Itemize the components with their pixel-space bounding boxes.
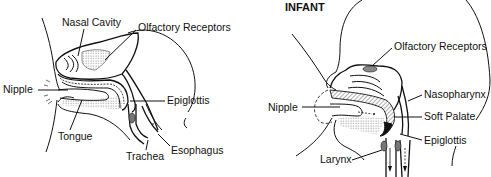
leader-esophagus xyxy=(158,134,170,146)
chin-profile xyxy=(46,100,57,152)
nipple-shape-infant xyxy=(330,104,362,116)
arrow-down-icon xyxy=(388,166,392,172)
infant-forehead xyxy=(336,0,362,72)
infant-skull-back xyxy=(466,0,490,120)
infant-title: INFANT xyxy=(285,1,325,13)
label-nasopharynx: Nasopharynx xyxy=(424,88,487,100)
face-profile xyxy=(42,18,60,90)
leader-epiglottis-infant xyxy=(400,134,422,140)
label-olfactory-receptors-adult: Olfactory Receptors xyxy=(138,21,231,33)
label-esophagus: Esophagus xyxy=(171,144,224,156)
label-nipple-infant: Nipple xyxy=(268,101,298,113)
leader-olfactory-adult xyxy=(105,30,136,60)
leader-trachea xyxy=(146,140,148,150)
anatomy-diagram: Nasal Cavity Olfactory Receptors Nipple … xyxy=(0,0,491,177)
infant-tongue-area xyxy=(338,117,384,135)
lip-marks xyxy=(44,80,52,104)
leader-nasopharynx xyxy=(408,95,422,101)
leader-larynx xyxy=(352,150,382,160)
label-soft-palate: Soft Palate xyxy=(424,110,476,122)
label-olfactory-receptors-infant: Olfactory Receptors xyxy=(394,40,487,52)
infant-olfactory-receptors-area xyxy=(363,66,377,72)
label-tongue: Tongue xyxy=(58,130,93,142)
leader-olfactory-infant xyxy=(372,48,392,66)
label-epiglottis-adult: Epiglottis xyxy=(167,94,210,106)
label-nasal-cavity: Nasal Cavity xyxy=(62,16,122,28)
arrow-down-icon xyxy=(403,166,407,172)
label-trachea: Trachea xyxy=(126,150,164,162)
tongue-area xyxy=(62,96,123,110)
label-epiglottis-infant: Epiglottis xyxy=(424,134,467,146)
infant-face-profile xyxy=(292,34,336,90)
label-nipple-adult: Nipple xyxy=(3,83,33,95)
label-larynx: Larynx xyxy=(320,153,352,165)
